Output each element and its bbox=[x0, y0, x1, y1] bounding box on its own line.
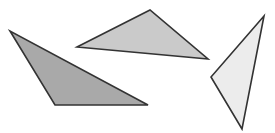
triangles-diagram bbox=[0, 0, 275, 133]
medium-gray-triangle bbox=[77, 10, 208, 59]
light-gray-triangle bbox=[211, 16, 264, 129]
